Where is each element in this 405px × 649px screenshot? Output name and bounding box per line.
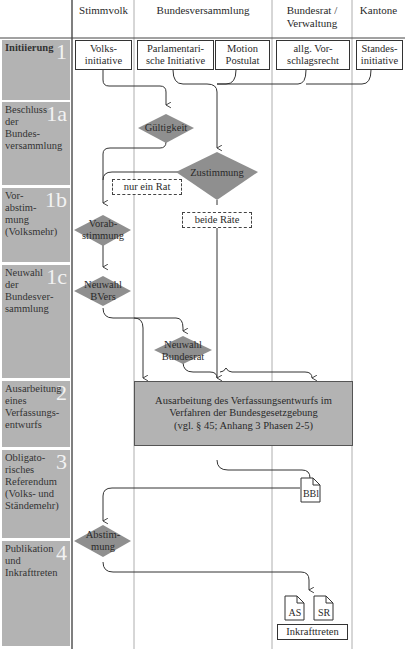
decision-label-abstimmung: Abstim- mung <box>77 529 129 553</box>
condition-beide-raete: beide Räte <box>182 212 252 228</box>
initiator-label: Volks- initiative <box>81 43 127 67</box>
initiator-motion-postulat: Motion Postulat <box>215 40 270 70</box>
document-label-as: AS <box>285 607 305 618</box>
phase-text: Initiierung <box>5 42 53 53</box>
process-line-2: Verfahren der Bundesgesetzgebung <box>155 407 332 420</box>
document-label-bbl: BBl <box>301 488 321 499</box>
initiator-standesinitiative: Standes- initiative <box>356 40 403 70</box>
initiator-label: Motion Postulat <box>221 43 265 67</box>
document-label-sr: SR <box>314 607 334 618</box>
decision-label-neuwahl-bundesrat: Neuwahl Bundesrat <box>152 339 214 363</box>
process-line-3: (vgl. § 45; Anhang 3 Phasen 2-5) <box>155 420 332 433</box>
initiator-label: Parlamentari- sche Initiative <box>140 43 212 67</box>
phase-text: Beschluss der Bundes­versammlung <box>5 104 53 152</box>
phase-text: Ausar­beitung eines Verfassungs­entwurfs <box>5 383 63 431</box>
condition-label: beide Räte <box>195 214 240 226</box>
phase-text: Publika­tion und Inkrafttreten <box>5 543 61 579</box>
outcome-inkrafttreten: Inkrafttreten <box>277 624 348 640</box>
initiator-parlamentarische-initiative: Parlamentari- sche Initiative <box>137 40 214 70</box>
decision-label-vorabstimmung: Vorab- stimmung <box>75 218 131 242</box>
condition-nur-ein-rat: nur ein Rat <box>112 179 182 195</box>
initiator-label: allg. Vor- schlagsrecht <box>280 43 346 67</box>
outcome-label: Inkrafttreten <box>286 626 338 638</box>
process-ausarbeitung: Ausarbeitung des Verfassungsentwurfs im … <box>134 381 353 446</box>
decision-label-neuwahl-bvers: Neuwahl BVers <box>75 279 131 303</box>
initiator-vorschlagsrecht: allg. Vor- schlagsrecht <box>276 40 350 70</box>
phase-text: Vor­abstim­mung (Volksmehr) <box>5 190 45 238</box>
condition-label: nur ein Rat <box>124 181 171 193</box>
process-line-1: Ausarbeitung des Verfassungsentwurfs im <box>155 395 332 408</box>
connectors <box>103 70 371 590</box>
phase-text: Obligato­risches Referendum (Volks- und … <box>5 452 67 512</box>
initiator-label: Standes- initiative <box>358 43 402 67</box>
decision-label-gueltigkeit: Gültigkeit <box>136 122 196 134</box>
decision-label-zustimmung: Zustimmung <box>177 167 257 179</box>
initiator-volksinitiative: Volks- initiative <box>75 40 132 70</box>
phase-text: Neu­wahl der Bundesver­sammlung <box>5 267 53 315</box>
